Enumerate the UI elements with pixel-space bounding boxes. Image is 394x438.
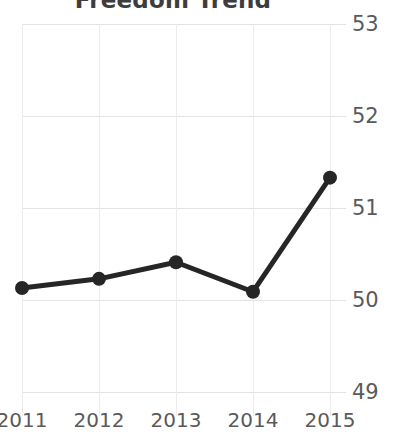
x-axis-tick-2014: 2014 (218, 410, 288, 430)
data-point-2014 (246, 285, 260, 299)
y-axis-tick-51: 51 (352, 198, 392, 219)
y-axis-tick-52: 52 (352, 106, 392, 127)
series-line (22, 178, 330, 292)
y-axis-tick-49: 49 (352, 382, 392, 403)
y-axis-tick-50: 50 (352, 290, 392, 311)
data-point-2015 (323, 171, 337, 185)
x-axis-tick-2013: 2013 (141, 410, 211, 430)
plot-area: 53 52 51 50 49 2011 2012 2013 2014 2015 (0, 0, 346, 438)
x-axis-tick-2011: 2011 (0, 410, 57, 430)
data-point-2011 (15, 281, 29, 295)
data-series-freedom (0, 0, 346, 438)
data-point-2013 (169, 255, 183, 269)
y-axis-tick-53: 53 (352, 14, 392, 35)
data-point-2012 (92, 272, 106, 286)
x-axis-tick-2015: 2015 (295, 410, 365, 430)
x-axis-tick-2012: 2012 (64, 410, 134, 430)
freedom-trend-chart: Freedom Trend 53 52 51 50 49 2011 2012 2… (0, 0, 394, 438)
